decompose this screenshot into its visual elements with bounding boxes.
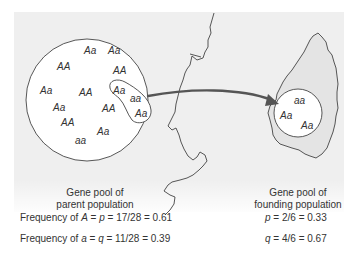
founding-freq-p: p = 2/6 = 0.33 [265, 212, 327, 224]
founder-effect-diagram: AaAaAAAAAaAAAaAAAAAaaa AaaaAa aaAaAa Gen… [0, 0, 352, 258]
sample-genotype-label: aa [130, 94, 141, 104]
founding-caption: Gene pool of founding population [248, 187, 348, 211]
genotype-label: AA [57, 62, 70, 72]
genotype-label: AA [102, 104, 115, 114]
parent-freq-a: Frequency of a = q = 11/28 = 0.39 [20, 233, 170, 245]
genotype-label: Aa [108, 46, 120, 56]
freq-A-eq1: = [88, 212, 99, 223]
parent-caption-line2: parent population [40, 199, 150, 211]
founding-caption-line1: Gene pool of [248, 187, 348, 199]
genotype-label: Aa [84, 46, 96, 56]
allele-A: A [81, 212, 88, 223]
mainland-coastline-lower [164, 185, 175, 215]
founding-freq-q: q = 4/6 = 0.67 [265, 233, 327, 245]
genotype-label: Aa [40, 86, 52, 96]
sample-genotype-label: Aa [113, 86, 125, 96]
freq-a-eq1: = [87, 233, 98, 244]
mainland-coastline [168, 13, 214, 185]
founder-genotype-label: aa [294, 96, 305, 106]
genotype-label: AA [61, 118, 74, 128]
parent-caption-line1: Gene pool of [40, 187, 150, 199]
freq-A-prefix: Frequency of [20, 212, 81, 223]
parent-freq-A: Frequency of A = p = 17/28 = 0.61 [20, 212, 172, 224]
genotype-label: aa [75, 136, 86, 146]
genotype-label: Aa [53, 103, 65, 113]
sample-genotype-label: Aa [135, 109, 147, 119]
freq-a-value: = 11/28 = 0.39 [104, 233, 171, 244]
genotype-label: AA [79, 88, 92, 98]
founding-q-value: = 4/6 = 0.67 [271, 233, 327, 244]
founder-genotype-label: Aa [301, 121, 313, 131]
freq-a-prefix: Frequency of [20, 233, 81, 244]
founding-caption-line2: founding population [248, 199, 348, 211]
freq-A-value: = 17/28 = 0.61 [105, 212, 172, 223]
founder-genotype-label: Aa [280, 111, 292, 121]
migration-arrow [148, 90, 272, 100]
parent-caption: Gene pool of parent population [40, 187, 150, 211]
genotype-label: Aa [97, 127, 109, 137]
founding-p-value: = 2/6 = 0.33 [271, 212, 327, 223]
genotype-label: AA [113, 66, 126, 76]
